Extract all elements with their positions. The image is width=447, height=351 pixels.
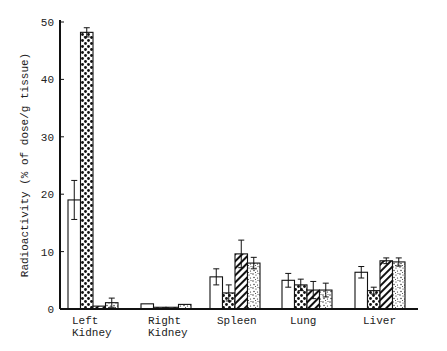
y-tick-label-20: 20 (41, 189, 54, 201)
x-label-2-line1: Spleen (217, 315, 257, 327)
x-label-4-line1: Liver (363, 315, 396, 327)
y-axis-title: Radioactivity (% of dose/g tissue) (19, 53, 31, 277)
y-tick-label-0: 0 (47, 304, 54, 316)
y-tick-label-30: 30 (41, 132, 54, 144)
bar-speckled-4 (393, 262, 406, 309)
x-label-0-line1: Left (72, 315, 98, 327)
x-label-3-line1: Lung (290, 315, 316, 327)
bar-chart: Radioactivity (% of dose/g tissue) 01020… (0, 0, 447, 351)
y-tick-label-50: 50 (41, 17, 54, 29)
bar-dotted-0 (81, 32, 94, 309)
bar-hatched-4 (380, 261, 393, 309)
x-label-1-line2: Kidney (148, 327, 188, 339)
bar-speckled-2 (248, 263, 261, 309)
y-tick-label-10: 10 (41, 247, 54, 259)
x-labels-layer: LeftKidneyRightKidneySpleenLungLiver (72, 315, 396, 339)
y-axis-title-group: Radioactivity (% of dose/g tissue) (19, 53, 31, 277)
y-tick-label-40: 40 (41, 74, 54, 86)
x-label-0-line2: Kidney (72, 327, 112, 339)
x-label-1-line1: Right (148, 315, 181, 327)
bars-layer (68, 32, 405, 309)
